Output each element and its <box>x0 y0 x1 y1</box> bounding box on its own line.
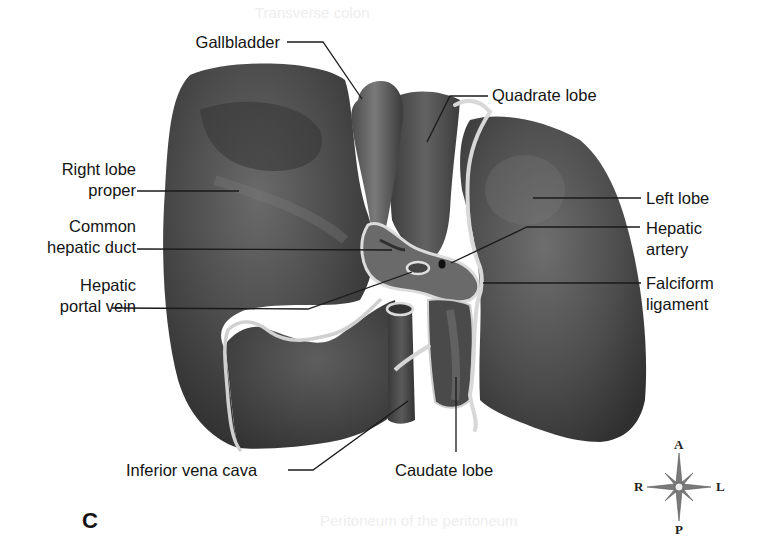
label-common-hepatic-duct-line2: hepatic duct <box>10 238 136 257</box>
liver-illustration <box>0 0 761 538</box>
label-right-lobe-line1: Right lobe <box>20 160 136 179</box>
panel-letter: C <box>82 508 98 534</box>
label-inferior-vena-cava: Inferior vena cava <box>126 461 257 480</box>
label-quadrate-lobe: Quadrate lobe <box>492 86 597 105</box>
label-gallbladder: Gallbladder <box>160 33 280 52</box>
label-hepatic-portal-vein-line1: Hepatic <box>10 276 136 295</box>
label-common-hepatic-duct-line1: Common <box>10 217 136 236</box>
compass-anterior-label: A <box>674 437 683 453</box>
left-lobe <box>460 117 646 442</box>
label-hepatic-artery-line1: Hepatic <box>646 219 702 238</box>
inferior-vena-cava <box>387 303 430 424</box>
label-hepatic-artery-line2: artery <box>646 240 688 259</box>
label-hepatic-portal-vein-line2: portal vein <box>10 297 136 316</box>
hepatic-artery <box>439 260 446 269</box>
compass-left-label: L <box>716 479 725 495</box>
caudate-lobe <box>428 299 473 408</box>
compass-rose-icon <box>647 453 711 521</box>
label-caudate-lobe: Caudate lobe <box>395 461 493 480</box>
label-falciform-ligament-line2: ligament <box>646 295 708 314</box>
label-falciform-ligament-line1: Falciform <box>646 274 714 293</box>
liver-inferior-view-figure: Transverse colon Peritoneum of the perit… <box>0 0 761 538</box>
compass-right-label: R <box>634 479 643 495</box>
label-left-lobe: Left lobe <box>646 189 709 208</box>
label-right-lobe-line2: proper <box>20 181 136 200</box>
compass-posterior-label: P <box>675 522 683 538</box>
